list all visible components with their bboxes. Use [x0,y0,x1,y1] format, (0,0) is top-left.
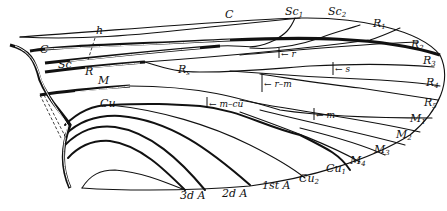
label-m: M [97,74,110,87]
label-crossvein-mcu: ← m–cu [209,99,243,109]
label-r: R [84,65,93,78]
label-sc1: Sc1 [285,5,303,19]
costa-vein [20,18,300,38]
label-sc2: Sc2 [328,5,347,19]
label-crossvein-rm: ← r–m [264,79,292,89]
first-anal-vein [65,116,250,185]
label-crossvein-m: ← m [316,110,335,120]
label-c-top: C [225,8,234,21]
label-h: h [96,24,103,37]
label-crossvein-s: ← s [335,64,350,74]
label-r3: R3 [422,54,436,68]
label-crossvein-r: ← r [281,49,296,59]
label-r5: R5 [423,96,437,110]
label-sc: Sc [58,58,72,71]
label-2d-a: 2d A [221,187,248,200]
label-r1: R1 [372,17,386,31]
label-m1: M1 [409,112,426,126]
label-1st-a: 1st A [262,179,291,192]
label-rs: Rs [177,63,190,77]
label-c-base: C [40,43,49,56]
media-vein [130,86,432,118]
label-3d-a: 3d A [180,189,206,202]
label-m3: M3 [373,143,390,157]
label-cu1: Cu1 [326,162,346,176]
label-cu: Cu [100,97,116,110]
wing-venation-diagram: C C h Sc R M Cu Sc1 Sc2 R1 R2 R3 R4 R5 M… [0,0,447,211]
label-r4: R4 [425,76,439,90]
label-cu2: Cu2 [299,172,320,186]
label-m4: M4 [349,154,366,168]
